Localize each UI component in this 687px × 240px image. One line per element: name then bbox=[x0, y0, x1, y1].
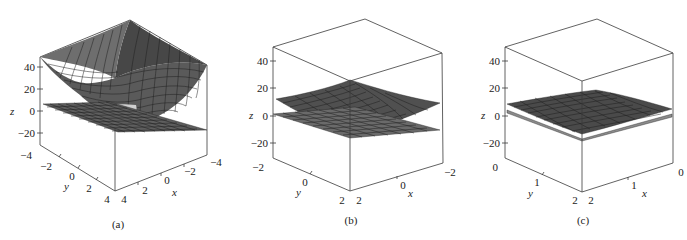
figure: 40 20 0 −20 z −4 −2 0 2 4 y 4 2 0 −2 −4 … bbox=[0, 0, 687, 240]
x-tick-label: 2 bbox=[142, 184, 148, 196]
z-tick-label: 0 bbox=[263, 110, 269, 122]
y-tick-label: 2 bbox=[572, 194, 578, 206]
x-tick-label: 0 bbox=[164, 174, 170, 186]
z-tick-label: 40 bbox=[24, 61, 36, 73]
panel-caption: (c) bbox=[577, 214, 590, 227]
panel-c: 40 20 0 −20 z 0 1 2 y 2 1 0 x (c) bbox=[480, 19, 684, 227]
z-tick-label: 40 bbox=[489, 55, 501, 67]
y-tick-label: −4 bbox=[20, 149, 32, 161]
box-top-face bbox=[505, 19, 673, 81]
x-axis-label: x bbox=[171, 186, 177, 198]
y-axis-line bbox=[273, 158, 350, 191]
y-tick-label: 1 bbox=[534, 176, 540, 188]
z-tick-label: 40 bbox=[257, 55, 269, 67]
x-axis-label: x bbox=[641, 187, 647, 199]
y-tick-label: 0 bbox=[69, 170, 75, 182]
y-tick-label: −2 bbox=[252, 161, 264, 173]
y-tick-label: 2 bbox=[86, 182, 92, 194]
z-axis-label: z bbox=[480, 109, 486, 121]
x-tick-label: 0 bbox=[678, 166, 684, 178]
x-axis: 4 2 0 −2 −4 x bbox=[121, 156, 222, 205]
y-tick-label: 0 bbox=[493, 161, 499, 173]
z-tick-label: −20 bbox=[18, 127, 36, 139]
y-axis-line bbox=[505, 158, 582, 192]
x-tick-label: 1 bbox=[631, 179, 637, 191]
x-axis-line bbox=[350, 163, 443, 191]
y-axis-label: y bbox=[295, 186, 301, 198]
z-axis: 40 20 0 −20 z bbox=[9, 61, 43, 139]
panel-a: 40 20 0 −20 z −4 −2 0 2 4 y 4 2 0 −2 −4 … bbox=[9, 20, 222, 231]
x-axis: 2 1 0 x bbox=[588, 166, 684, 206]
x-tick-label: −2 bbox=[184, 165, 196, 177]
y-tick-label: 4 bbox=[104, 193, 110, 205]
z-axis: 40 20 0 −20 z bbox=[480, 55, 508, 149]
x-tick-label: 0 bbox=[400, 179, 406, 191]
z-tick-label: 20 bbox=[489, 82, 501, 94]
x-axis-label: x bbox=[407, 187, 413, 199]
y-tick-label: 2 bbox=[339, 194, 345, 206]
z-tick-label: −20 bbox=[483, 137, 501, 149]
z-tick-label: −20 bbox=[251, 137, 269, 149]
box-right-edge bbox=[442, 53, 443, 163]
x-tick-label: 2 bbox=[588, 194, 594, 206]
panel-b: 40 20 0 −20 z −2 0 2 y 2 0 −2 x (b) bbox=[248, 19, 456, 227]
y-axis-label: y bbox=[63, 180, 69, 192]
z-axis-label: z bbox=[9, 105, 15, 117]
z-tick-label: 0 bbox=[30, 105, 36, 117]
z-tick-label: 0 bbox=[495, 110, 501, 122]
z-tick-label: 20 bbox=[257, 82, 269, 94]
x-tick-label: 4 bbox=[121, 193, 127, 205]
x-tick-label: −4 bbox=[210, 156, 222, 168]
z-axis-label: z bbox=[248, 109, 254, 121]
box-top-face bbox=[273, 19, 442, 81]
x-tick-label: 2 bbox=[356, 194, 362, 206]
y-axis-label: y bbox=[527, 187, 533, 199]
z-axis: 40 20 0 −20 z bbox=[248, 55, 276, 149]
y-axis: 0 1 2 y bbox=[493, 161, 578, 206]
x-tick-label: −2 bbox=[444, 166, 456, 178]
y-tick-label: 0 bbox=[302, 176, 308, 188]
panel-caption: (a) bbox=[112, 218, 125, 231]
panel-caption: (b) bbox=[345, 214, 358, 227]
y-tick-label: −2 bbox=[40, 160, 52, 172]
x-axis-line bbox=[582, 163, 673, 192]
z-tick-label: 20 bbox=[24, 83, 36, 95]
x-axis: 2 0 −2 x bbox=[356, 166, 456, 206]
y-axis: −2 0 2 y bbox=[252, 161, 344, 206]
y-axis: −4 −2 0 2 4 y bbox=[20, 149, 110, 205]
